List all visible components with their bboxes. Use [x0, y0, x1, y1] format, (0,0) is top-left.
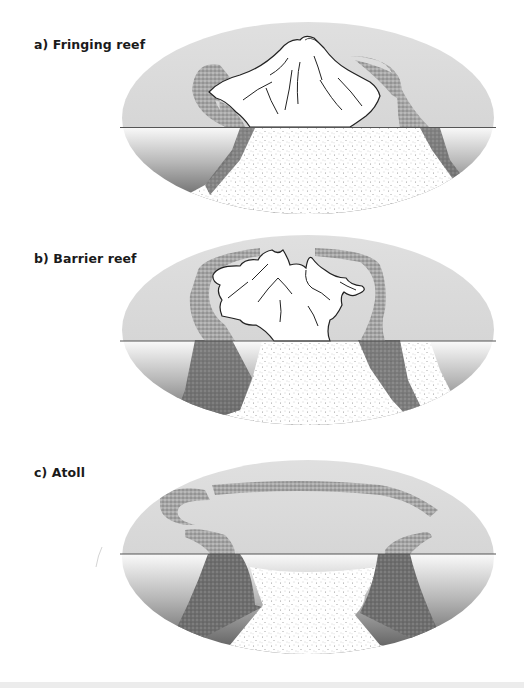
atoll-diagram [0, 455, 524, 682]
fringing-reef-diagram [0, 0, 524, 225]
faint-mark [96, 547, 102, 567]
bottom-strip [0, 682, 524, 688]
barrier-reef-diagram [0, 230, 524, 445]
